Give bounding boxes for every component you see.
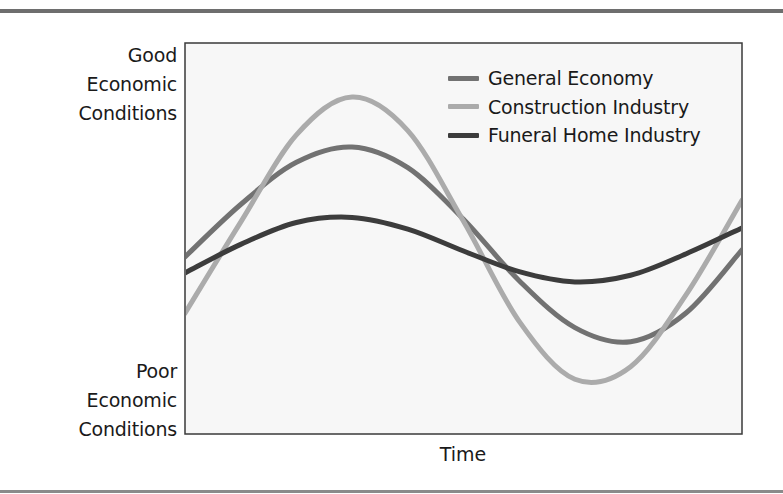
legend-item-general-economy: General Economy xyxy=(448,64,701,93)
legend-swatch-general-economy xyxy=(448,76,479,81)
y-axis-top-label: Good Economic Conditions xyxy=(7,41,177,128)
y-bottom-line-2: Economic xyxy=(7,386,177,415)
y-axis-bottom-label: Poor Economic Conditions xyxy=(7,357,177,444)
y-top-line-3: Conditions xyxy=(7,99,177,128)
legend-label: General Economy xyxy=(488,67,653,89)
y-bottom-line-3: Conditions xyxy=(7,415,177,444)
legend-swatch-construction-industry xyxy=(448,104,479,109)
legend: General Economy Construction Industry Fu… xyxy=(448,64,701,150)
y-bottom-line-1: Poor xyxy=(7,357,177,386)
y-top-line-1: Good xyxy=(7,41,177,70)
y-top-line-2: Economic xyxy=(7,70,177,99)
bottom-rule xyxy=(0,490,783,493)
legend-label: Funeral Home Industry xyxy=(488,124,701,146)
x-axis-label: Time xyxy=(413,443,513,465)
legend-item-construction-industry: Construction Industry xyxy=(448,93,701,122)
legend-label: Construction Industry xyxy=(488,96,689,118)
legend-item-funeral-home-industry: Funeral Home Industry xyxy=(448,121,701,150)
legend-swatch-funeral-home-industry xyxy=(448,133,479,138)
